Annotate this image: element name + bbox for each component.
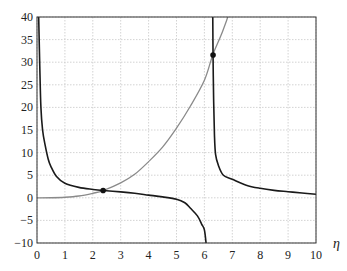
x-tick-label: 5 [174,248,180,262]
x-tick-label: 1 [62,248,68,262]
y-tick-label: 0 [27,191,33,205]
x-tick-label: 4 [146,248,152,262]
x-tick-label: 3 [118,248,124,262]
y-tick-label: 35 [21,33,33,47]
y-tick-label: −5 [20,213,33,227]
y-tick-label: 40 [21,10,33,24]
x-tick-label: 0 [34,248,40,262]
chart: 012345678910 −10−50510152025303540 η [0,0,347,271]
x-tick-label: 10 [310,248,322,262]
y-tick-label: 25 [21,78,33,92]
y-tick-label: −10 [14,236,33,250]
intersection-point [100,188,106,194]
black-curve [213,17,316,194]
y-axis-ticks: −10−50510152025303540 [14,10,33,250]
x-axis-ticks: 012345678910 [34,248,322,262]
x-tick-label: 7 [229,248,235,262]
x-tick-label: 9 [285,248,291,262]
y-tick-label: 10 [21,146,33,160]
y-tick-label: 15 [21,123,33,137]
x-tick-label: 6 [201,248,207,262]
y-tick-label: 30 [21,55,33,69]
x-tick-label: 2 [90,248,96,262]
grid-lines [37,17,316,243]
y-tick-label: 5 [27,168,33,182]
x-axis-label: η [333,236,340,251]
intersection-markers [100,52,216,193]
intersection-point [210,52,216,58]
y-tick-label: 20 [21,100,33,114]
x-tick-label: 8 [257,248,263,262]
